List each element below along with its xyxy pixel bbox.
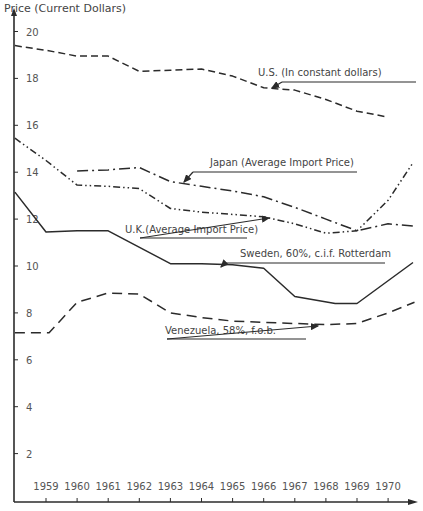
- series-line-u-s-in-constant-dollars: [15, 46, 388, 118]
- x-tick-label: 1969: [344, 481, 369, 492]
- annotations-group: U.S. (In constant dollars)Japan (Average…: [125, 67, 416, 339]
- y-tick-label: 16: [26, 120, 39, 131]
- x-tick-label: 1966: [251, 481, 276, 492]
- y-tick-label: 4: [26, 402, 32, 413]
- annotation-leader-arrow-icon: [272, 82, 282, 88]
- x-tick-label: 1962: [127, 481, 152, 492]
- x-axis-arrow-icon: [408, 499, 418, 505]
- x-tick-label: 1960: [64, 481, 89, 492]
- y-tick-label: 14: [26, 167, 39, 178]
- x-tick-label: 1961: [95, 481, 120, 492]
- series-line-u-k-average-import-price: [15, 138, 413, 233]
- y-tick-label: 6: [26, 355, 32, 366]
- series-group: [15, 46, 415, 333]
- annotation-leader-arrow-icon: [184, 172, 193, 182]
- y-tick-label: 10: [26, 261, 39, 272]
- x-tick-label: 1967: [282, 481, 307, 492]
- y-axis-arrow-icon: [11, 8, 17, 16]
- x-tick-label: 1964: [189, 481, 214, 492]
- y-tick-label: 20: [26, 27, 39, 38]
- y-tick-label: 18: [26, 73, 39, 84]
- x-tick-label: 1965: [220, 481, 245, 492]
- x-tick-label: 1968: [313, 481, 338, 492]
- y-tick-label: 2: [26, 449, 32, 460]
- y-tick-label: 8: [26, 308, 32, 319]
- line-chart: 2468101214161820195919601961196219631964…: [0, 0, 423, 511]
- annotation-label: U.S. (In constant dollars): [258, 67, 382, 78]
- x-tick-label: 1970: [375, 481, 400, 492]
- annotation-label: Sweden, 60%, c.i.f. Rotterdam: [240, 248, 391, 259]
- x-tick-label: 1963: [158, 481, 183, 492]
- annotation-label: Japan (Average Import Price): [209, 157, 354, 168]
- x-tick-label: 1959: [33, 481, 58, 492]
